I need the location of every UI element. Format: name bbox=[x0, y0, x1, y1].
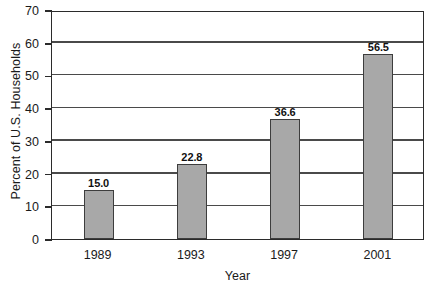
x-axis-tick-label: 1997 bbox=[270, 248, 298, 262]
y-axis-tick-label: 0 bbox=[9, 233, 39, 247]
bar: 36.6 bbox=[270, 119, 300, 239]
y-axis-tick-label: 50 bbox=[9, 69, 39, 83]
bar-value-label: 36.6 bbox=[275, 106, 296, 118]
x-axis-tick-label: 1993 bbox=[177, 248, 205, 262]
y-axis-tick-label: 40 bbox=[9, 102, 39, 116]
y-axis-tick-label: 60 bbox=[9, 37, 39, 51]
bar-value-label: 56.5 bbox=[368, 41, 389, 53]
bar: 15.0 bbox=[84, 190, 114, 239]
bar-value-label: 22.8 bbox=[181, 151, 202, 163]
y-axis-tick-label: 30 bbox=[9, 135, 39, 149]
y-axis-tick-label: 10 bbox=[9, 200, 39, 214]
y-axis-tick-label: 20 bbox=[9, 168, 39, 182]
bar-group: 15.022.836.656.5 bbox=[52, 12, 423, 239]
x-axis-tick-label: 2001 bbox=[363, 248, 391, 262]
bar: 22.8 bbox=[177, 164, 207, 239]
x-axis-tick-label: 1989 bbox=[84, 248, 112, 262]
bar-value-label: 15.0 bbox=[88, 177, 109, 189]
y-axis-title: Percent of U.S. Households bbox=[9, 21, 23, 221]
bar: 56.5 bbox=[363, 54, 393, 239]
plot-area: 15.022.836.656.5 bbox=[51, 11, 424, 240]
x-axis-title: Year bbox=[51, 269, 424, 283]
bar-chart: Percent of U.S. Households 0102030405060… bbox=[0, 0, 440, 289]
y-axis-tick-label: 70 bbox=[9, 4, 39, 18]
